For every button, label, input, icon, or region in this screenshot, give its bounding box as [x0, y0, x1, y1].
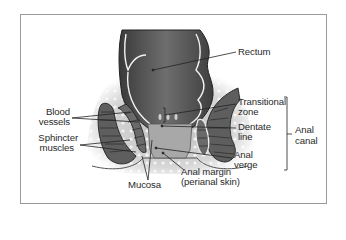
label-anal-canal-1: Anal	[295, 125, 314, 136]
label-dentate-line-2: line	[238, 132, 253, 143]
label-anal-margin-2: (perianal skin)	[181, 177, 240, 188]
label-blood-vessels-2: vessels	[30, 117, 70, 128]
label-rectum: Rectum	[238, 47, 270, 58]
label-mucosa: Mucosa	[128, 180, 161, 191]
anal-canal-mucosa	[148, 124, 192, 158]
label-anal-verge-2: verge	[234, 160, 258, 171]
label-sphincter-muscles-2: muscles	[22, 143, 74, 154]
label-transitional-zone-2: zone	[238, 107, 258, 118]
label-anal-canal-2: canal	[295, 136, 317, 147]
